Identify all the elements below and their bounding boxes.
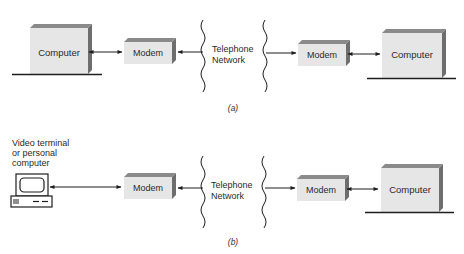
right-modem-box: Modem	[297, 175, 349, 201]
modem-diagram: Computer Modem Telephone Network Modem	[0, 0, 464, 254]
left-computer-box: Computer	[12, 24, 102, 75]
network-label-line1: Telephone	[211, 180, 253, 190]
caption-b: (b)	[228, 237, 239, 247]
left-computer-label: Computer	[38, 47, 80, 58]
left-modem-box: Modem	[124, 173, 176, 199]
network-right-boundary	[263, 20, 267, 92]
right-modem-label: Modem	[306, 185, 336, 195]
terminal-label-line1: Video terminal	[12, 138, 69, 148]
right-modem-label: Modem	[307, 50, 337, 60]
caption-a: (a)	[228, 103, 239, 113]
network-label-line2: Network	[212, 55, 246, 65]
right-computer-box: Computer	[365, 164, 454, 213]
diagram-a: Computer Modem Telephone Network Modem	[12, 20, 456, 113]
right-computer-label: Computer	[391, 49, 433, 60]
right-computer-label: Computer	[389, 184, 431, 195]
network-left-boundary	[201, 20, 205, 92]
network-left-boundary	[201, 156, 205, 228]
left-modem-box: Modem	[124, 38, 176, 64]
terminal-label-line2: or personal	[12, 148, 57, 158]
video-terminal-icon	[11, 174, 52, 207]
right-modem-box: Modem	[298, 40, 350, 66]
network-label-line1: Telephone	[212, 44, 254, 54]
network-label-line2: Network	[211, 191, 245, 201]
terminal-label-line3: computer	[12, 158, 50, 168]
right-computer-box: Computer	[367, 29, 456, 79]
diagram-b: Video terminal or personal computer Mode…	[11, 138, 454, 247]
left-modem-label: Modem	[133, 183, 163, 193]
left-modem-label: Modem	[133, 48, 163, 58]
network-right-boundary	[262, 156, 266, 228]
